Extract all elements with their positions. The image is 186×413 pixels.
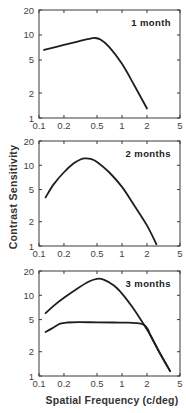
panel-2: 0.10.20.512512510202 months	[23, 136, 182, 260]
panel-1: 0.10.20.512512510201 month	[23, 5, 182, 132]
x-tick-label: 0.1	[32, 248, 45, 259]
y-tick-label: 1	[29, 371, 34, 382]
x-tick-label: 0.2	[57, 248, 70, 259]
x-tick-label: 5	[177, 248, 182, 259]
x-tick-label: 0.5	[90, 378, 103, 389]
y-tick-label: 5	[29, 54, 34, 65]
x-tick-label: 5	[177, 120, 182, 131]
x-tick-label: 1	[119, 120, 124, 131]
data-curve	[46, 158, 157, 244]
x-tick-label: 0.1	[32, 120, 45, 131]
panel-title: 2 months	[126, 148, 171, 159]
data-curve	[44, 38, 147, 109]
y-tick-label: 2	[29, 346, 34, 357]
x-tick-label: 0.2	[57, 378, 70, 389]
y-tick-label: 10	[23, 160, 34, 171]
x-tick-label: 2	[144, 120, 149, 131]
y-tick-label: 5	[29, 184, 34, 195]
y-tick-label: 20	[23, 5, 34, 16]
x-tick-label: 5	[177, 378, 182, 389]
x-tick-label: 0.5	[90, 120, 103, 131]
x-axis-label: Spatial Frequency (c/deg)	[38, 394, 186, 406]
y-tick-label: 2	[29, 88, 34, 99]
y-tick-label: 10	[23, 29, 34, 40]
y-tick-label: 5	[29, 314, 34, 325]
x-tick-label: 0.1	[32, 378, 45, 389]
y-tick-label: 2	[29, 216, 34, 227]
y-tick-label: 10	[23, 290, 34, 301]
y-axis-label: Contrast Sensitivity	[7, 137, 21, 257]
panel-title: 3 months	[126, 278, 171, 289]
x-tick-label: 0.5	[90, 248, 103, 259]
x-tick-label: 0.2	[57, 120, 70, 131]
data-curve	[46, 322, 171, 371]
y-tick-label: 1	[29, 113, 34, 124]
panel-title: 1 month	[131, 17, 171, 28]
contrast-sensitivity-figure: 0.10.20.512512510201 month0.10.20.512512…	[0, 0, 186, 413]
y-tick-label: 20	[23, 136, 34, 147]
panel-3: 0.10.20.512512510203 months	[23, 266, 182, 390]
plots-canvas: 0.10.20.512512510201 month0.10.20.512512…	[0, 0, 186, 413]
x-tick-label: 2	[144, 248, 149, 259]
x-tick-label: 2	[144, 378, 149, 389]
x-tick-label: 1	[119, 378, 124, 389]
y-tick-label: 20	[23, 266, 34, 277]
x-tick-label: 1	[119, 248, 124, 259]
y-tick-label: 1	[29, 241, 34, 252]
data-curve	[46, 279, 171, 371]
